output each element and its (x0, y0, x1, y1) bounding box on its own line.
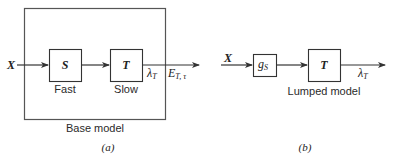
e-t-tau-label: ET, τ (167, 66, 187, 81)
input-x-label-b: X (223, 51, 233, 65)
panel-b-label: (b) (299, 141, 312, 154)
lambda-t-label-a: λT (146, 66, 157, 81)
block-s-label: S (62, 58, 69, 72)
block-diagram: X S Fast T Slow λT ET, τ Base model (a) … (0, 0, 393, 158)
panel-a-label: (a) (102, 141, 115, 154)
lumped-model-caption: Lumped model (288, 85, 361, 97)
block-t-a-label: T (122, 58, 130, 72)
panel-b: X gS T Lumped model λT (b) (221, 50, 385, 155)
block-t-a-caption: Slow (114, 83, 138, 95)
base-model-enclosure (25, 9, 166, 120)
base-model-caption: Base model (66, 122, 124, 134)
input-x-label-a: X (6, 58, 16, 72)
block-t-b-label: T (320, 58, 328, 72)
block-s-caption: Fast (54, 83, 75, 95)
panel-a: X S Fast T Slow λT ET, τ Base model (a) (6, 9, 199, 155)
lambda-t-label-b: λT (357, 66, 368, 81)
